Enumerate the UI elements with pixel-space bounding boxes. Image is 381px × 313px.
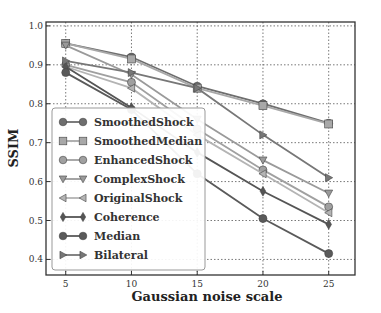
x-tick-label: 20 [257, 279, 269, 289]
legend-box [52, 108, 205, 270]
legend-label: SmoothedShock [94, 116, 194, 129]
legend-label: Bilateral [94, 249, 148, 262]
legend-label: EnhancedShock [94, 154, 193, 167]
y-tick-label: 0.6 [29, 177, 44, 187]
y-axis-ticks: 0.40.50.60.70.80.91.0 [29, 21, 50, 265]
x-tick-label: 25 [323, 279, 335, 289]
marker-circle [259, 215, 267, 223]
marker-square [127, 55, 135, 63]
y-tick-label: 0.4 [29, 254, 44, 264]
marker-square [325, 120, 333, 128]
marker-triangle-down [325, 190, 333, 197]
marker-square [79, 137, 87, 145]
marker-diamond [326, 220, 332, 230]
marker-square [59, 137, 67, 145]
x-axis-ticks: 510152025 [63, 271, 335, 289]
line-chart: 510152025 0.40.50.60.70.80.91.0 Gaussian… [0, 0, 381, 313]
x-tick-label: 5 [63, 279, 69, 289]
legend: SmoothedShockSmoothedMedianEnhancedShock… [52, 108, 205, 270]
legend-label: Median [94, 230, 140, 243]
marker-circle [59, 156, 67, 164]
y-tick-label: 1.0 [29, 21, 44, 31]
marker-circle [62, 69, 70, 77]
marker-circle [325, 250, 333, 258]
marker-circle [59, 118, 67, 126]
x-tick-label: 10 [126, 279, 138, 289]
legend-label: ComplexShock [94, 173, 185, 186]
marker-triangle-down [259, 157, 267, 164]
legend-label: OriginalShock [94, 192, 183, 205]
y-tick-label: 0.8 [29, 99, 44, 109]
marker-circle [79, 232, 87, 240]
y-axis-label: SSIM [6, 129, 21, 168]
x-tick-label: 15 [191, 279, 203, 289]
marker-circle [79, 156, 87, 164]
marker-circle [59, 232, 67, 240]
y-tick-label: 0.5 [29, 216, 44, 226]
marker-diamond [260, 187, 266, 197]
marker-circle [79, 118, 87, 126]
marker-square [259, 102, 267, 110]
legend-label: Coherence [94, 211, 160, 224]
x-axis-label: Gaussian noise scale [132, 289, 283, 304]
legend-label: SmoothedMedian [94, 135, 202, 148]
y-tick-label: 0.9 [29, 60, 44, 70]
y-tick-label: 0.7 [29, 138, 44, 148]
